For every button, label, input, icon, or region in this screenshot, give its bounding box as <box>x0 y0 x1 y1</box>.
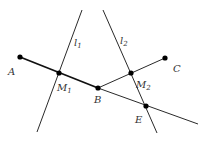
label-l2: l2 <box>120 35 128 48</box>
label-e: E <box>134 114 143 125</box>
point-m2 <box>128 70 133 75</box>
label-l1: l1 <box>74 37 82 50</box>
label-b: B <box>93 94 101 105</box>
label-c: C <box>173 63 181 74</box>
point-a <box>17 54 22 59</box>
label-m1: M1 <box>56 82 72 95</box>
point-m1 <box>56 70 61 75</box>
label-m2: M2 <box>135 79 151 92</box>
point-b <box>95 85 100 90</box>
point-e <box>143 103 148 108</box>
label-a: A <box>7 66 15 77</box>
point-c <box>162 55 167 60</box>
geometry-diagram: A M1 B M2 C E l1 l2 <box>0 0 209 142</box>
